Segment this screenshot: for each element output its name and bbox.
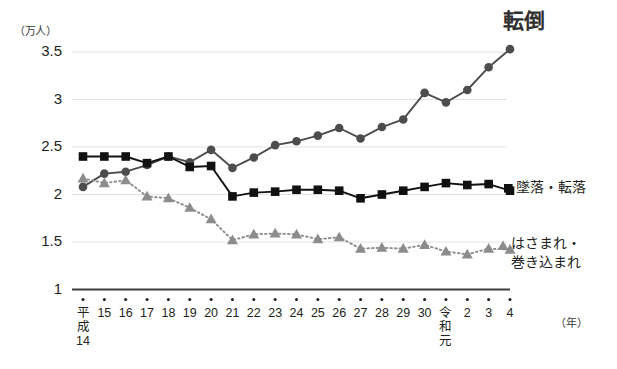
series-label-caught-line2: 巻き込まれ (511, 253, 581, 272)
series-fall (79, 45, 515, 191)
gridlines (72, 52, 507, 242)
x-axis-ticks (82, 298, 512, 301)
series-label-drop: 墜落・転落 (516, 178, 586, 197)
chart-page: （万人） 11.522.533.5 平成14151617181920212223… (0, 0, 617, 369)
series-label-fall: 転倒 (503, 11, 545, 30)
series-label-caught: はさまれ・ 巻き込まれ (511, 234, 581, 272)
series-label-caught-line1: はさまれ・ (511, 234, 581, 253)
